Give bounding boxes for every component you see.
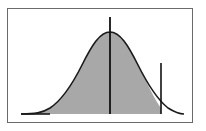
shaded-area <box>21 32 161 114</box>
normal-curve-diagram <box>0 0 206 131</box>
